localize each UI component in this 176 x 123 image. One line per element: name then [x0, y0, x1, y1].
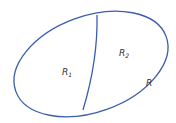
region-r2-label: R2	[119, 48, 129, 59]
outer-ellipse-boundary	[0, 0, 176, 123]
region-r1-label: R1	[62, 67, 72, 78]
region-diagram: R1 R2 R	[0, 0, 176, 123]
region-r-boundary-label: R	[146, 78, 152, 88]
dividing-curve	[83, 15, 97, 110]
